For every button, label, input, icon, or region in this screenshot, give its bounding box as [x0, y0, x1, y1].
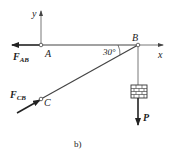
point-a-label: A — [44, 48, 52, 59]
force-fcb-label: FCB — [9, 89, 26, 102]
force-fab-label: FAB — [12, 51, 29, 64]
x-axis-label: x — [157, 49, 163, 60]
angle-arc — [118, 45, 120, 55]
angle-label: 30° — [102, 47, 116, 57]
weight-block — [131, 85, 147, 98]
point-b-label: B — [132, 32, 138, 43]
force-p-label: P — [143, 112, 150, 123]
point-c — [39, 97, 43, 101]
point-a — [39, 43, 43, 47]
point-b — [136, 43, 140, 47]
figure-caption: b) — [74, 139, 82, 149]
point-c-label: C — [44, 97, 51, 108]
free-body-diagram: y x A FAB C FCB 30° B — [0, 0, 174, 154]
rod-cb — [41, 45, 138, 99]
y-axis-label: y — [31, 8, 37, 19]
